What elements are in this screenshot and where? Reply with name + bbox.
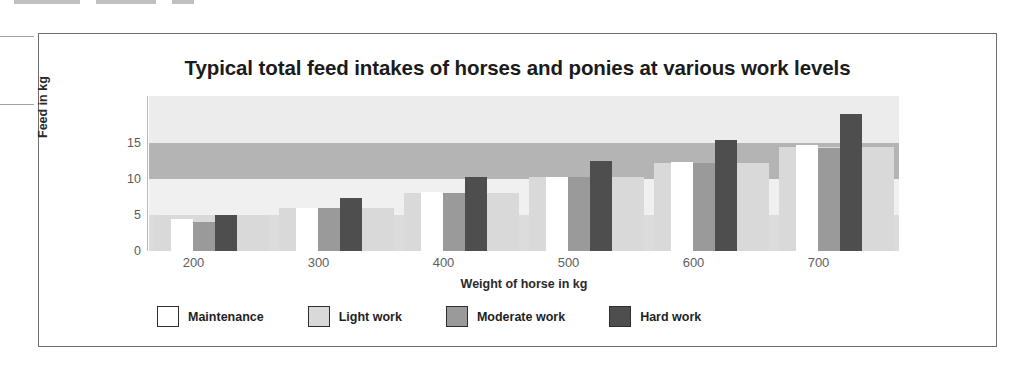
legend-swatch-icon-2	[446, 306, 468, 327]
x-tick-500: 500	[558, 255, 580, 270]
bar-maintenance-500	[546, 177, 568, 251]
bar-moderate-work-500	[568, 177, 590, 251]
x-tick-300: 300	[308, 255, 330, 270]
bar-hard-work-600	[715, 140, 737, 251]
legend-label-0: Maintenance	[188, 310, 264, 324]
legend-item-light-work[interactable]: Light work	[308, 306, 402, 327]
scan-artifact-top-3	[172, 0, 194, 4]
legend-item-hard-work[interactable]: Hard work	[609, 306, 701, 327]
bar-hard-work-400	[465, 177, 487, 251]
legend-item-maintenance[interactable]: Maintenance	[157, 306, 264, 327]
y-axis-tick-labels: 051015	[111, 96, 141, 251]
bar-moderate-work-400	[443, 193, 465, 251]
y-axis-title: Feed in kg	[36, 76, 50, 138]
bar-hard-work-500	[590, 161, 612, 251]
legend-label-2: Moderate work	[477, 310, 565, 324]
bar-moderate-work-200	[193, 222, 215, 251]
bar-maintenance-400	[421, 192, 443, 251]
bar-maintenance-300	[296, 208, 318, 251]
x-tick-400: 400	[433, 255, 455, 270]
scan-artifact-top-1	[14, 0, 80, 4]
scan-artifact-left-rule-2	[0, 104, 34, 105]
scan-artifact-left-rule-1	[0, 36, 34, 37]
chart-legend: MaintenanceLight workModerate workHard w…	[157, 306, 745, 327]
y-tick-15: 15	[115, 136, 141, 150]
bar-moderate-work-700	[818, 148, 840, 251]
x-axis-title: Weight of horse in kg	[149, 277, 899, 291]
y-tick-0: 0	[115, 244, 141, 258]
legend-swatch-icon-0	[157, 306, 179, 327]
legend-label-3: Hard work	[640, 310, 701, 324]
legend-label-1: Light work	[339, 310, 402, 324]
legend-swatch-icon-3	[609, 306, 631, 327]
bar-moderate-work-600	[693, 163, 715, 251]
x-tick-600: 600	[683, 255, 705, 270]
plot-wrapper	[149, 96, 899, 251]
plot-area	[149, 96, 899, 251]
scan-artifact-top-2	[96, 0, 156, 4]
bar-maintenance-200	[171, 219, 193, 251]
y-tick-10: 10	[115, 172, 141, 186]
legend-swatch-icon-1	[308, 306, 330, 327]
x-tick-700: 700	[808, 255, 830, 270]
bar-hard-work-300	[340, 198, 362, 251]
bar-moderate-work-300	[318, 208, 340, 251]
bar-maintenance-600	[671, 162, 693, 251]
bar-maintenance-700	[796, 145, 818, 251]
y-axis-line	[147, 96, 148, 251]
bar-hard-work-700	[840, 114, 862, 251]
chart-title: Typical total feed intakes of horses and…	[39, 56, 996, 80]
figure-frame: Typical total feed intakes of horses and…	[38, 33, 997, 347]
legend-item-moderate-work[interactable]: Moderate work	[446, 306, 565, 327]
y-tick-5: 5	[115, 208, 141, 222]
x-axis-tick-labels: 200300400500600700	[149, 255, 899, 273]
x-tick-200: 200	[183, 255, 205, 270]
background-band-3	[149, 96, 899, 143]
bar-hard-work-200	[215, 215, 237, 251]
